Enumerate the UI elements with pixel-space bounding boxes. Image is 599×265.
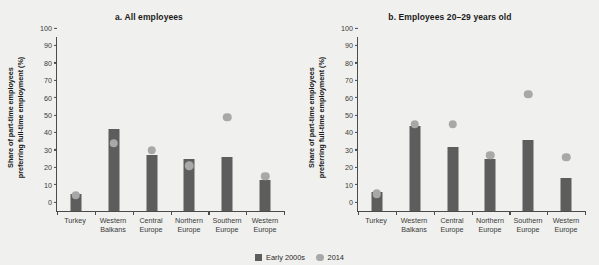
x-axis-category-label-line: Southern — [212, 216, 241, 225]
bar — [561, 178, 572, 211]
legend-label: 2014 — [328, 253, 344, 262]
x-axis-category-label-line: Europe — [440, 225, 463, 234]
x-axis-category-label-line: Europe — [139, 225, 162, 234]
x-axis-tick — [246, 211, 247, 215]
y-axis-tick-label: 40 — [44, 128, 57, 137]
y-axis-tick-label: 0 — [48, 198, 57, 207]
x-axis-tick — [57, 211, 58, 215]
figure: a. All employees Share of part-time empl… — [0, 0, 599, 265]
data-point-marker — [486, 151, 495, 160]
legend: Early 2000s2014 — [0, 253, 599, 262]
data-point-marker — [411, 120, 420, 129]
panel-a: a. All employees Share of part-time empl… — [4, 0, 294, 240]
y-axis-tick-label: 50 — [44, 111, 57, 120]
data-point-marker — [373, 189, 382, 198]
x-axis-category-label-line: Western — [553, 216, 580, 225]
data-point-marker — [223, 113, 232, 122]
x-axis-category-label: SouthernEurope — [513, 216, 542, 234]
data-point-marker — [562, 153, 571, 162]
y-axis-tick-label: 70 — [345, 76, 358, 85]
x-axis-category-label: Turkey — [64, 216, 86, 225]
bar — [146, 155, 157, 211]
legend-item: Early 2000s — [255, 253, 305, 262]
panel-a-plot-area: 0102030405060708090100 — [56, 37, 284, 212]
bar — [447, 147, 458, 211]
y-axis-title-line-2: preferring full-time employment (%) — [16, 30, 26, 205]
x-axis-category-label-line: Turkey — [64, 216, 86, 225]
panel-b-x-axis-labels: TurkeyWesternBalkansCentralEuropeNorther… — [357, 216, 585, 240]
x-axis-category-label-line: Northern — [476, 216, 504, 225]
x-axis-category-label: NorthernEurope — [476, 216, 504, 234]
data-point-marker — [448, 120, 457, 129]
panel-b: b. Employees 20–29 years old Share of pa… — [305, 0, 595, 240]
y-axis-tick-label: 90 — [44, 41, 57, 50]
x-axis-category-label-line: Central — [440, 216, 463, 225]
y-axis-tick-label: 30 — [44, 145, 57, 154]
panel-b-title: b. Employees 20–29 years old — [305, 12, 595, 22]
x-axis-category-label: WesternEurope — [252, 216, 279, 234]
y-axis-tick-label: 90 — [345, 41, 358, 50]
x-axis-category-label-line: Europe — [553, 225, 580, 234]
bar — [260, 180, 271, 211]
x-axis-category-label-line: Northern — [175, 216, 203, 225]
y-axis-tick-label: 100 — [341, 24, 358, 33]
x-axis-tick — [585, 211, 586, 215]
panel-a-title: a. All employees — [4, 12, 294, 22]
panel-b-plot-area: 0102030405060708090100 — [357, 37, 585, 212]
x-axis-category-label-line: Balkans — [100, 225, 127, 234]
y-axis-tick-label: 70 — [44, 76, 57, 85]
x-axis-tick — [208, 211, 209, 215]
x-axis-category-label-line: Western — [401, 216, 428, 225]
x-axis-tick — [95, 211, 96, 215]
legend-circle-icon — [316, 254, 324, 262]
legend-item: 2014 — [316, 253, 344, 262]
panel-b-y-axis-title: Share of part-time employees preferring … — [307, 30, 331, 205]
panels-container: a. All employees Share of part-time empl… — [0, 0, 599, 240]
y-axis-title-line-1: Share of part-time employees — [307, 30, 317, 205]
data-point-marker — [524, 90, 533, 99]
x-axis-tick — [547, 211, 548, 215]
y-axis-tick-label: 100 — [40, 24, 57, 33]
x-axis-tick — [284, 211, 285, 215]
x-axis-tick — [358, 211, 359, 215]
y-axis-tick-label: 0 — [349, 198, 358, 207]
x-axis-tick — [434, 211, 435, 215]
data-point-marker — [185, 162, 194, 171]
y-axis-tick-label: 10 — [44, 180, 57, 189]
x-axis-category-label-line: Europe — [212, 225, 241, 234]
x-axis-category-label-line: Turkey — [365, 216, 387, 225]
x-axis-category-label-line: Europe — [476, 225, 504, 234]
x-axis-category-label-line: Europe — [175, 225, 203, 234]
data-point-marker — [110, 139, 119, 148]
x-axis-category-label-line: Central — [139, 216, 162, 225]
y-axis-tick-label: 10 — [345, 180, 358, 189]
y-axis-tick-label: 60 — [44, 93, 57, 102]
y-axis-title-line-2: preferring full-time employment (%) — [317, 30, 327, 205]
x-axis-tick — [171, 211, 172, 215]
y-axis-tick-label: 60 — [345, 93, 358, 102]
y-axis-tick-label: 30 — [345, 145, 358, 154]
data-point-marker — [72, 191, 81, 200]
x-axis-category-label-line: Europe — [252, 225, 279, 234]
y-axis-tick-label: 40 — [345, 128, 358, 137]
x-axis-tick — [133, 211, 134, 215]
x-axis-tick — [396, 211, 397, 215]
x-axis-category-label-line: Western — [100, 216, 127, 225]
legend-label: Early 2000s — [266, 253, 305, 262]
bar — [485, 159, 496, 211]
legend-square-icon — [255, 254, 262, 261]
x-axis-category-label: WesternBalkans — [100, 216, 127, 234]
bar — [222, 157, 233, 211]
x-axis-category-label-line: Western — [252, 216, 279, 225]
y-axis-tick-label: 20 — [44, 163, 57, 172]
x-axis-category-label: CentralEurope — [139, 216, 162, 234]
x-axis-category-label: CentralEurope — [440, 216, 463, 234]
y-axis-title-line-1: Share of part-time employees — [6, 30, 16, 205]
y-axis-tick-label: 80 — [44, 58, 57, 67]
x-axis-category-label: Turkey — [365, 216, 387, 225]
y-axis-tick-label: 80 — [345, 58, 358, 67]
x-axis-category-label: WesternEurope — [553, 216, 580, 234]
y-axis-tick-label: 50 — [345, 111, 358, 120]
x-axis-category-label-line: Balkans — [401, 225, 428, 234]
x-axis-category-label-line: Europe — [513, 225, 542, 234]
